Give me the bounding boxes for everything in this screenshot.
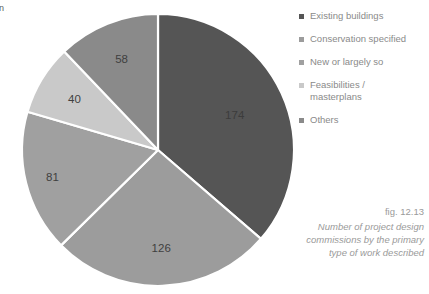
legend-item-conservation-specified[interactable]: Conservation specified (299, 33, 429, 45)
legend-item-label: Existing buildings (310, 10, 383, 22)
pie-slice-value-label: 81 (46, 171, 59, 183)
figure-caption: fig. 12.13 Number of project design comm… (292, 205, 424, 259)
legend-item-label: Conservation specified (310, 33, 406, 45)
pie-slice-value-label: 40 (68, 93, 81, 105)
pie-slice-value-label: 174 (225, 109, 245, 121)
pie-chart: 174126814058 (0, 0, 300, 294)
figure-caption-text: Number of project design commissions by … (292, 220, 424, 259)
legend-swatch-icon (299, 118, 304, 123)
pie-slice-value-label: 126 (152, 242, 171, 254)
pie-chart-svg: 174126814058 (0, 0, 300, 294)
legend-item-label: Others (310, 114, 339, 126)
pie-slice-value-label: 58 (115, 53, 128, 65)
legend-swatch-icon (299, 14, 304, 19)
legend-item-others[interactable]: Others (299, 114, 429, 126)
legend-item-feasibilities-masterplans[interactable]: Feasibilities / masterplans (299, 79, 429, 103)
legend-swatch-icon (299, 60, 304, 65)
legend-item-label: New or largely so (310, 56, 383, 68)
legend-item-label: Feasibilities / masterplans (310, 79, 365, 103)
figure-page: An 1 - 174126814058 Existing buildings C… (0, 0, 429, 294)
figure-number: fig. 12.13 (292, 205, 424, 219)
legend-swatch-icon (299, 37, 304, 42)
legend-item-new-or-largely-so[interactable]: New or largely so (299, 56, 429, 68)
legend-swatch-icon (299, 83, 304, 88)
legend-item-existing-buildings[interactable]: Existing buildings (299, 10, 429, 22)
legend: Existing buildings Conservation specifie… (299, 10, 429, 137)
